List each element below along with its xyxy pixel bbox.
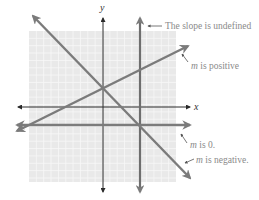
annotation-zero-text: is 0. bbox=[197, 140, 215, 150]
annotation-zero: m is 0. bbox=[190, 140, 215, 150]
annotation-undefined: The slope is undefined bbox=[165, 21, 252, 31]
annotation-positive-text: is positive bbox=[198, 61, 239, 71]
slope-diagram: x y The slope is undefined m is positive… bbox=[0, 0, 259, 200]
callout-arrow-positive bbox=[182, 54, 188, 62]
annotation-positive: m is positive bbox=[191, 61, 239, 71]
callout-arrow-zero bbox=[181, 134, 187, 143]
annotation-negative-text: is negative. bbox=[203, 155, 249, 165]
x-axis-label: x bbox=[193, 101, 199, 112]
y-axis-label: y bbox=[99, 2, 105, 13]
callout-arrow-negative bbox=[185, 159, 194, 163]
annotation-negative: m is negative. bbox=[196, 155, 249, 165]
